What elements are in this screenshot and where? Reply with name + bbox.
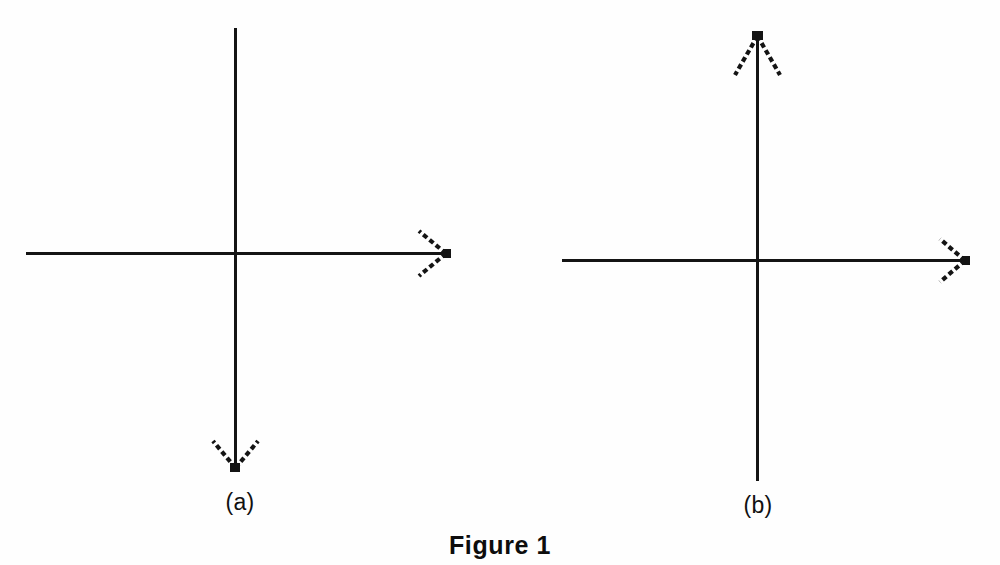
figure-canvas xyxy=(0,0,1000,565)
figure-page: (a) (b) Figure 1 xyxy=(0,0,1000,565)
panel-b-axes xyxy=(562,31,970,481)
panel-a-axes xyxy=(26,28,451,472)
panel-b-label: (b) xyxy=(708,492,808,519)
panel-a-label: (a) xyxy=(190,489,290,516)
figure-caption: Figure 1 xyxy=(0,531,1000,560)
